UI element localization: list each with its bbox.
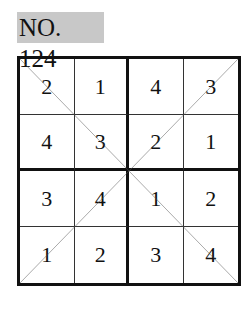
grid-cell: 1 <box>20 227 75 283</box>
grid-cells: 2 1 4 3 4 3 2 1 3 4 1 2 1 2 3 4 <box>20 59 238 283</box>
grid-cell: 4 <box>20 115 75 171</box>
puzzle-number-label: NO. 124 <box>17 12 104 43</box>
grid-cell: 3 <box>129 227 184 283</box>
grid-cell: 4 <box>184 227 239 283</box>
grid-cell: 3 <box>75 115 130 171</box>
grid-cell: 4 <box>129 59 184 115</box>
grid-cell: 3 <box>184 59 239 115</box>
grid-cell: 2 <box>129 115 184 171</box>
grid-cell: 1 <box>184 115 239 171</box>
grid-cell: 4 <box>75 171 130 227</box>
grid-cell: 2 <box>184 171 239 227</box>
grid-cell: 2 <box>20 59 75 115</box>
grid-cell: 1 <box>129 171 184 227</box>
grid-cell: 3 <box>20 171 75 227</box>
grid-cell: 2 <box>75 227 130 283</box>
grid-cell: 1 <box>75 59 130 115</box>
sudoku-grid: 2 1 4 3 4 3 2 1 3 4 1 2 1 2 3 4 <box>17 56 241 286</box>
